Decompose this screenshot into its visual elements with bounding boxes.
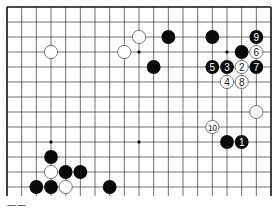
diagram-caption: 一一 [7, 203, 27, 210]
move-number: 2 [239, 62, 245, 73]
black-stone: 7 [249, 60, 263, 74]
white-stone [59, 180, 72, 193]
hoshi-point [137, 140, 140, 143]
black-stone [161, 30, 175, 44]
black-stone [205, 30, 219, 44]
black-stone: 9 [249, 30, 263, 44]
move-number: 3 [224, 62, 230, 73]
black-stone: 5 [205, 60, 219, 74]
white-stone: 10 [206, 120, 219, 133]
black-stone [29, 180, 43, 194]
white-stone: 8 [235, 75, 248, 88]
white-stone [44, 45, 57, 58]
black-stone [73, 165, 87, 179]
move-number: 1 [239, 137, 245, 148]
move-number: 8 [239, 77, 245, 88]
black-stone [103, 180, 117, 194]
black-stone [59, 165, 73, 179]
black-stone: 3 [220, 60, 234, 74]
black-stone [220, 135, 234, 149]
move-number: 6 [254, 47, 260, 58]
move-number: 10 [208, 123, 217, 133]
black-stone [147, 60, 161, 74]
move-number: 9 [254, 32, 260, 43]
black-stone [44, 180, 58, 194]
black-stone [44, 150, 58, 164]
move-number: 5 [210, 62, 216, 73]
white-stone [44, 165, 57, 178]
black-stone [235, 45, 249, 59]
white-stone: 4 [220, 75, 233, 88]
hoshi-point [137, 50, 140, 53]
black-stone: 1 [235, 135, 249, 149]
white-stone [132, 30, 145, 43]
white-stone: 2 [235, 60, 248, 73]
move-number: 4 [224, 77, 230, 88]
hoshi-point [225, 50, 228, 53]
white-stone: 6 [250, 45, 263, 58]
hoshi-point [49, 140, 52, 143]
white-stone [250, 105, 263, 118]
white-stone [118, 45, 131, 58]
move-number: 7 [254, 62, 260, 73]
go-board: 96532748101 [0, 0, 279, 200]
